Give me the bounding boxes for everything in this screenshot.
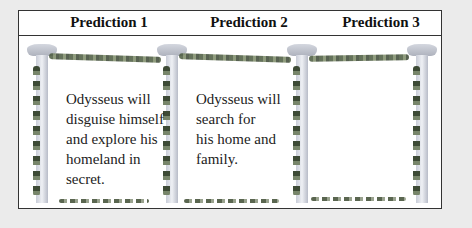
text-line: and explore his xyxy=(66,129,164,149)
ground-foliage-icon xyxy=(311,197,406,201)
text-line: disguise himself xyxy=(66,109,164,129)
vine-icon xyxy=(413,66,420,196)
header-prediction-2: Prediction 2 xyxy=(179,14,319,31)
ground-foliage-icon xyxy=(184,199,279,203)
garland-icon xyxy=(309,54,409,62)
prediction-chart-frame: Prediction 1 Prediction 2 Prediction 3 O… xyxy=(18,10,442,209)
text-line: family. xyxy=(196,149,281,169)
garland-icon xyxy=(49,53,161,63)
prediction-1-text: Odysseus will disguise himself and explo… xyxy=(66,89,164,189)
vine-icon xyxy=(293,66,300,196)
prediction-3-text xyxy=(324,89,404,189)
text-line: Odysseus will xyxy=(196,89,281,109)
header-prediction-1: Prediction 1 xyxy=(39,14,179,31)
text-line: homeland in xyxy=(66,149,164,169)
text-line: search for xyxy=(196,109,281,129)
ground-foliage-icon xyxy=(59,199,149,203)
text-line: secret. xyxy=(66,169,164,189)
header-row: Prediction 1 Prediction 2 Prediction 3 xyxy=(19,11,441,36)
vine-icon xyxy=(163,66,170,196)
text-line: Odysseus will xyxy=(66,89,164,109)
vine-icon xyxy=(33,66,40,196)
prediction-2-text: Odysseus will search for his home and fa… xyxy=(196,89,281,169)
text-line: his home and xyxy=(196,129,281,149)
header-prediction-3: Prediction 3 xyxy=(311,14,451,31)
garland-icon xyxy=(179,53,291,63)
